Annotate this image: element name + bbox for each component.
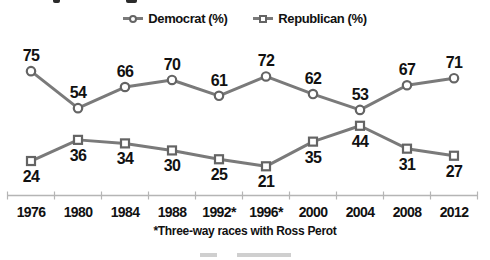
data-point-marker: [262, 72, 270, 80]
chart-svg: 7554667061726253677124363430252135443127…: [0, 0, 490, 260]
data-point-marker: [168, 76, 176, 84]
x-axis-label: 1992*: [202, 204, 237, 220]
x-axis-label: 2012: [440, 204, 470, 220]
data-label: 70: [164, 56, 181, 73]
data-label: 31: [399, 156, 416, 173]
data-label: 71: [446, 54, 463, 71]
data-label: 34: [117, 150, 134, 167]
chart-figure: Democrat (%) Republican (%) 755466706172…: [0, 0, 490, 260]
data-point-marker: [215, 92, 223, 100]
data-point-marker: [121, 83, 129, 91]
x-axis-label: 1984: [111, 204, 141, 220]
x-axis-label: 1980: [64, 204, 94, 220]
data-point-marker: [356, 106, 364, 114]
data-label: 53: [352, 86, 369, 103]
data-label: 30: [164, 157, 181, 174]
data-point-marker: [450, 74, 458, 82]
data-point-marker: [403, 145, 411, 153]
series-line-0: [31, 71, 454, 110]
data-point-marker: [309, 90, 317, 98]
data-label: 25: [211, 166, 228, 183]
data-point-marker: [74, 104, 82, 112]
data-label: 36: [70, 147, 87, 164]
data-label: 35: [305, 149, 322, 166]
data-point-marker: [356, 122, 364, 130]
data-label: 66: [117, 63, 134, 80]
chart-footnote: *Three-way races with Ross Perot: [0, 224, 490, 238]
x-axis-label: 2008: [393, 204, 423, 220]
data-label: 72: [258, 52, 275, 69]
data-label: 24: [23, 168, 40, 185]
data-label: 61: [211, 72, 228, 89]
data-point-marker: [168, 146, 176, 154]
data-point-marker: [403, 81, 411, 89]
data-label: 54: [70, 84, 87, 101]
data-label: 62: [305, 70, 322, 87]
data-point-marker: [215, 155, 223, 163]
data-label: 75: [23, 47, 40, 64]
x-axis-label: 1988: [158, 204, 188, 220]
x-axis-label: 2004: [346, 204, 376, 220]
data-point-marker: [74, 136, 82, 144]
data-point-marker: [121, 139, 129, 147]
data-point-marker: [309, 138, 317, 146]
x-axis-label: 1996*: [249, 204, 284, 220]
cropped-source-text-fragment: [237, 253, 291, 257]
cropped-source-text-fragment: [200, 253, 217, 257]
data-label: 44: [352, 133, 369, 150]
series-line-1: [31, 126, 454, 167]
data-point-marker: [262, 162, 270, 170]
data-point-marker: [27, 67, 35, 75]
data-label: 21: [258, 173, 275, 190]
data-label: 27: [446, 163, 463, 180]
x-axis-label: 1976: [17, 204, 47, 220]
x-axis-label: 2000: [299, 204, 329, 220]
data-point-marker: [450, 152, 458, 160]
data-point-marker: [27, 157, 35, 165]
data-label: 67: [399, 61, 416, 78]
